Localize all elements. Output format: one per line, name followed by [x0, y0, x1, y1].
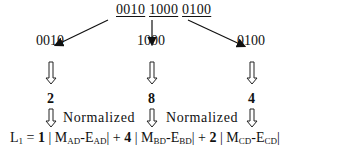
term-1-m-sub: AD — [67, 136, 80, 146]
normalized-label-1: Normalized — [63, 110, 135, 126]
term-2-e: E — [171, 130, 180, 145]
code-label-right: 0100 — [237, 33, 265, 49]
arrow-right-icon — [188, 20, 244, 46]
plus-2: + — [198, 130, 209, 145]
term-2-e-sub: BD — [179, 136, 192, 146]
term-1-coef: 1 — [38, 130, 45, 145]
formula-equals: = — [23, 130, 38, 145]
term-1-e-sub: AD — [93, 136, 106, 146]
term-3-m: M — [226, 130, 238, 145]
term-2-coef: 4 — [124, 130, 131, 145]
formula-lhs: L — [10, 130, 19, 145]
plus-1: + — [113, 130, 124, 145]
term-3-m-sub: CD — [239, 136, 252, 146]
term-3-e-sub: CD — [264, 136, 277, 146]
term-2-m: M — [141, 130, 153, 145]
code-label-center: 1000 — [137, 33, 165, 49]
l1-formula: L1 = 1 | MAD-EAD| + 4 | MBD-EBD| + 2 | M… — [10, 130, 280, 146]
hollow-down-arrow-icon — [46, 62, 257, 84]
term-1-m: M — [55, 130, 67, 145]
term-2-m-sub: BD — [153, 136, 166, 146]
normalized-label-2: Normalized — [166, 110, 238, 126]
value-left: 2 — [47, 91, 54, 107]
term-3-coef: 2 — [209, 130, 216, 145]
value-center: 8 — [148, 91, 155, 107]
value-right: 4 — [248, 91, 255, 107]
code-label-left: 0010 — [36, 33, 64, 49]
